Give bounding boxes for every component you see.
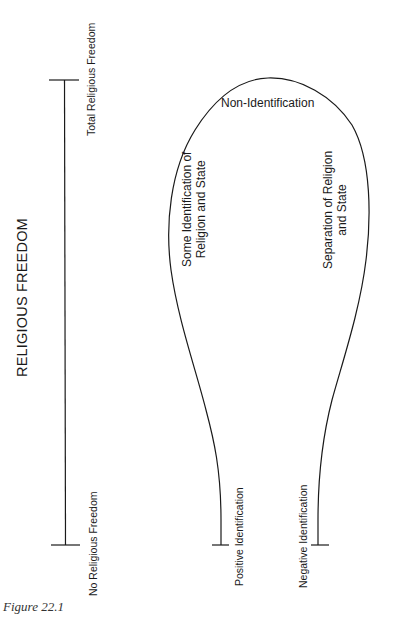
- bulb-shape: [169, 78, 369, 545]
- axis-line: [65, 80, 66, 545]
- non-identification-label: Non-Identification: [221, 96, 314, 110]
- some-identification-line2: Religion and State: [195, 152, 209, 267]
- positive-identification-label: Positive Identification: [233, 487, 245, 586]
- negative-identification-label: Negative Identification: [297, 485, 309, 588]
- some-identification-line1: Some Identification of: [181, 152, 195, 267]
- separation-label: Separation of Religion and State: [322, 151, 350, 269]
- some-identification-label: Some Identification of Religion and Stat…: [181, 152, 209, 267]
- diagram-canvas: [0, 0, 402, 630]
- figure-caption: Figure 22.1: [3, 599, 64, 615]
- separation-line2: and State: [336, 151, 350, 269]
- religious-freedom-axis: [49, 80, 80, 545]
- separation-line1: Separation of Religion: [322, 151, 336, 269]
- no-religious-freedom-label: No Religious Freedom: [87, 492, 99, 596]
- religious-freedom-axis-title: RELIGIOUS FREEDOM: [14, 218, 31, 377]
- religious-freedom-diagram: Total Religious Freedom RELIGIOUS FREEDO…: [0, 0, 402, 630]
- total-religious-freedom-label: Total Religious Freedom: [85, 23, 97, 136]
